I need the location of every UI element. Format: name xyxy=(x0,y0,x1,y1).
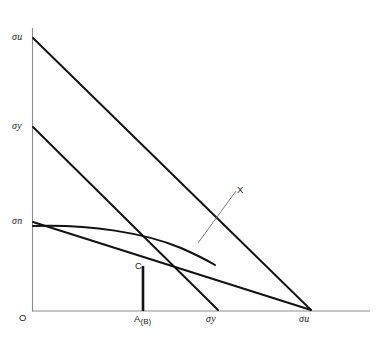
x-label-sigma-y: σy xyxy=(206,314,216,324)
sigma-u-subscript: u xyxy=(17,31,22,42)
x-label-a-b: A(B) xyxy=(134,314,151,326)
y-label-sigma-u: σu xyxy=(12,32,22,42)
curve-x-label: X xyxy=(237,185,244,195)
origin-label: O xyxy=(19,313,27,323)
sigma-y-line xyxy=(33,127,218,310)
sigma-u-line xyxy=(33,38,311,310)
sigma-u-subscript: u xyxy=(304,313,309,324)
sigma-y-subscript: y xyxy=(17,120,22,131)
marker-c-label: C xyxy=(135,261,142,271)
y-label-sigma-n: σn xyxy=(12,216,22,226)
diagram-canvas xyxy=(0,0,378,341)
figure-container: σu σy σn O A(B) σy σu C X xyxy=(0,0,378,341)
sigma-y-subscript: y xyxy=(211,313,216,324)
x-leader-line xyxy=(198,191,236,243)
b-subscript: (B) xyxy=(141,317,152,326)
sigma-n-subscript: n xyxy=(17,215,22,226)
sigma-n-line xyxy=(33,222,311,310)
x-label-sigma-u: σu xyxy=(299,314,309,324)
y-label-sigma-y: σy xyxy=(12,121,22,131)
